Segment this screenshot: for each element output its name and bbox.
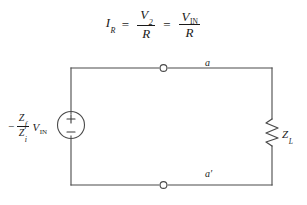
equation-equals-second: = [163, 18, 170, 31]
terminal-a-label-text: a [205, 57, 210, 68]
load-impedance-label: ZL [282, 128, 292, 143]
equation-term-one-numerator-symbol: V [140, 7, 148, 22]
equation-lhs: IR [106, 16, 115, 33]
load-label-symbol: Z [282, 128, 288, 140]
terminal-a-prime-label: a′ [205, 168, 212, 179]
source-label-denominator-symbol: Z [19, 127, 25, 138]
voltage-source-label: − Zf Zi VIN [8, 112, 47, 141]
equation-term-one-denominator: R [139, 26, 153, 40]
equation-term-two-numerator-symbol: V [182, 9, 190, 24]
source-label-numerator: Zf [17, 112, 29, 126]
terminal-a-node [160, 65, 167, 72]
source-label-denominator-subscript: i [25, 135, 27, 144]
equation-term-two-denominator: R [182, 25, 196, 39]
source-label-multiplicand-symbol: V [33, 121, 40, 133]
source-label-numerator-symbol: Z [19, 112, 25, 123]
equation-term-two-numerator-subscript: IN [190, 17, 198, 26]
source-label-multiplicand-subscript: IN [40, 128, 47, 136]
source-label-multiplicand: VIN [33, 121, 47, 133]
equation-lhs-subscript: R [110, 26, 115, 35]
equation-term-two-numerator: VIN [179, 10, 201, 24]
equation-term-one-fraction: V2 R [137, 8, 155, 41]
terminal-a-label: a [205, 57, 210, 68]
source-polarity-marks [67, 115, 75, 132]
terminal-a-prime-node [160, 182, 167, 189]
figure-canvas: IR = V2 R = VIN R [0, 0, 307, 205]
equation-row: IR = V2 R = VIN R [106, 8, 202, 41]
terminal-a-prime-mark: ′ [210, 168, 212, 179]
equation-equals-first: = [122, 18, 129, 31]
equation-term-two-fraction: VIN R [179, 10, 201, 39]
load-resistor-zigzag [266, 119, 278, 146]
equation-term-one-numerator: V2 [137, 8, 155, 26]
source-label-denominator: Zi [17, 127, 29, 141]
source-label-numerator-subscript: f [25, 120, 27, 129]
source-label-sign: − [8, 120, 14, 132]
equation-block: IR = V2 R = VIN R [0, 4, 307, 44]
load-label-subscript: L [289, 137, 293, 146]
equation-term-one-numerator-subscript: 2 [149, 18, 153, 27]
source-label-fraction: Zf Zi [17, 112, 29, 141]
